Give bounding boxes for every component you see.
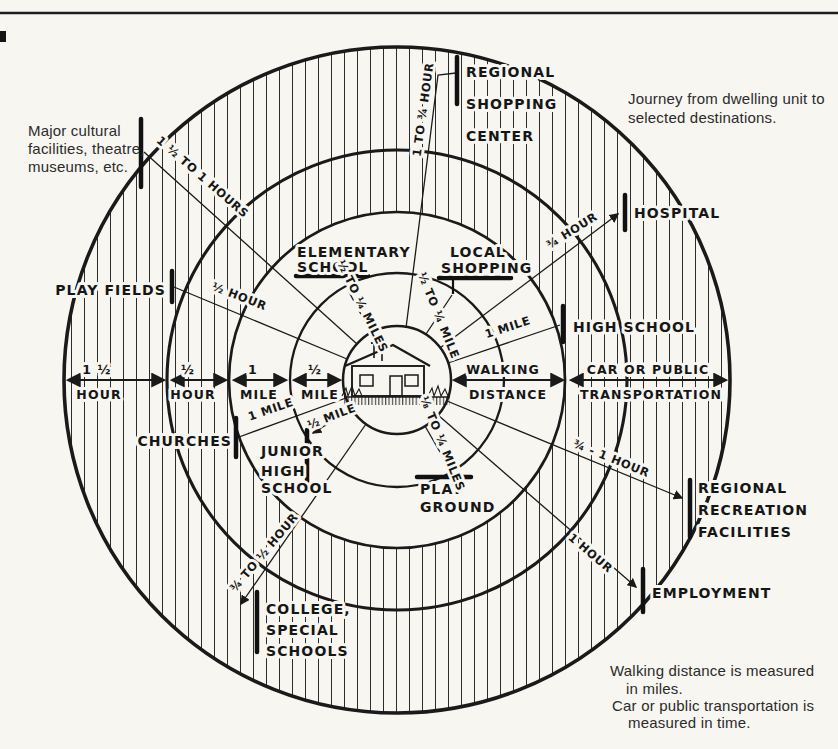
axis4-bottom: MILE [301,387,339,402]
regional-shopping-line2: SHOPPING [466,96,557,112]
axis5-top: WALKING [466,362,540,377]
legend-line4: measured in time. [628,714,751,731]
cultural-note-line2: facilities, theatre, [28,140,145,157]
regional-shopping-line1: REGIONAL [466,64,555,80]
legend-line2: in miles. [626,680,683,697]
axis2-bottom: HOUR [170,387,215,402]
churches-label: CHURCHES [137,433,232,449]
college-line1: COLLEGE, [266,601,351,617]
journey-note-line1: Journey from dwelling unit to [628,90,825,107]
playground-line2: GROUND [420,499,495,515]
axis6-top: CAR OR PUBLIC [587,362,709,377]
legend-line3: Car or public transportation is [612,697,814,714]
local-shopping-line1: LOCAL [450,244,506,260]
regional-shopping-line3: CENTER [466,128,534,144]
recreation-line3: FACILITIES [698,524,792,540]
local-shopping-line2: SHOPPING [441,260,532,276]
college-line3: SCHOOLS [266,643,349,659]
high-school-label: HIGH SCHOOL [573,319,695,335]
axis1-top: 1 ½ [82,362,111,377]
cultural-note-line1: Major cultural [28,122,121,139]
junior-high-line3: SCHOOL [261,480,332,496]
axis3-top: 1 [248,362,258,377]
dwelling-journey-diagram: 1 ½ HOUR ½ HOUR 1 MILE ½ MILE WALKING DI… [0,0,838,749]
axis1-bottom: HOUR [76,387,121,402]
axis6-bottom: TRANSPORTATION [580,387,722,402]
axis5-bottom: DISTANCE [469,387,547,402]
play-fields-label: PLAY FIELDS [55,282,166,298]
elementary-line1: ELEMENTARY [297,244,411,260]
recreation-line1: REGIONAL [698,480,787,496]
axis4-top: ½ [308,362,322,377]
college-line2: SPECIAL [266,622,339,638]
junior-high-line1: JUNIOR [260,443,324,459]
employment-label: EMPLOYMENT [652,585,771,601]
recreation-line2: RECREATION [698,502,808,518]
cultural-note-line3: museums, etc. [28,158,128,175]
journey-note-line2: selected destinations. [628,109,777,126]
hospital-label: HOSPITAL [634,205,720,221]
junior-high-journey: ½ MILE [305,401,358,432]
edge-mark [0,31,6,42]
axis3-bottom: MILE [240,387,278,402]
axis2-top: ½ [181,362,195,377]
elementary-line2: SCHOOL [297,259,368,275]
diagram-canvas: 1 ½ HOUR ½ HOUR 1 MILE ½ MILE WALKING DI… [0,0,838,749]
junior-high-line2: HIGH [261,463,306,479]
legend-line1: Walking distance is measured [610,662,814,679]
